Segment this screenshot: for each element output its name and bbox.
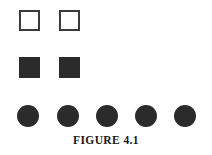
filled-circle-1-icon: [17, 105, 39, 127]
filled-circle-2-icon: [57, 105, 79, 127]
figure-caption: FIGURE 4.1: [0, 134, 212, 146]
filled-circle-5-icon: [174, 105, 196, 127]
filled-square-2-icon: [59, 57, 80, 78]
figure-page: FIGURE 4.1: [0, 0, 212, 155]
filled-square-1-icon: [19, 57, 40, 78]
open-square-2-icon: [59, 10, 80, 31]
filled-circle-4-icon: [135, 105, 157, 127]
filled-circle-3-icon: [96, 105, 118, 127]
open-square-1-icon: [19, 10, 40, 31]
